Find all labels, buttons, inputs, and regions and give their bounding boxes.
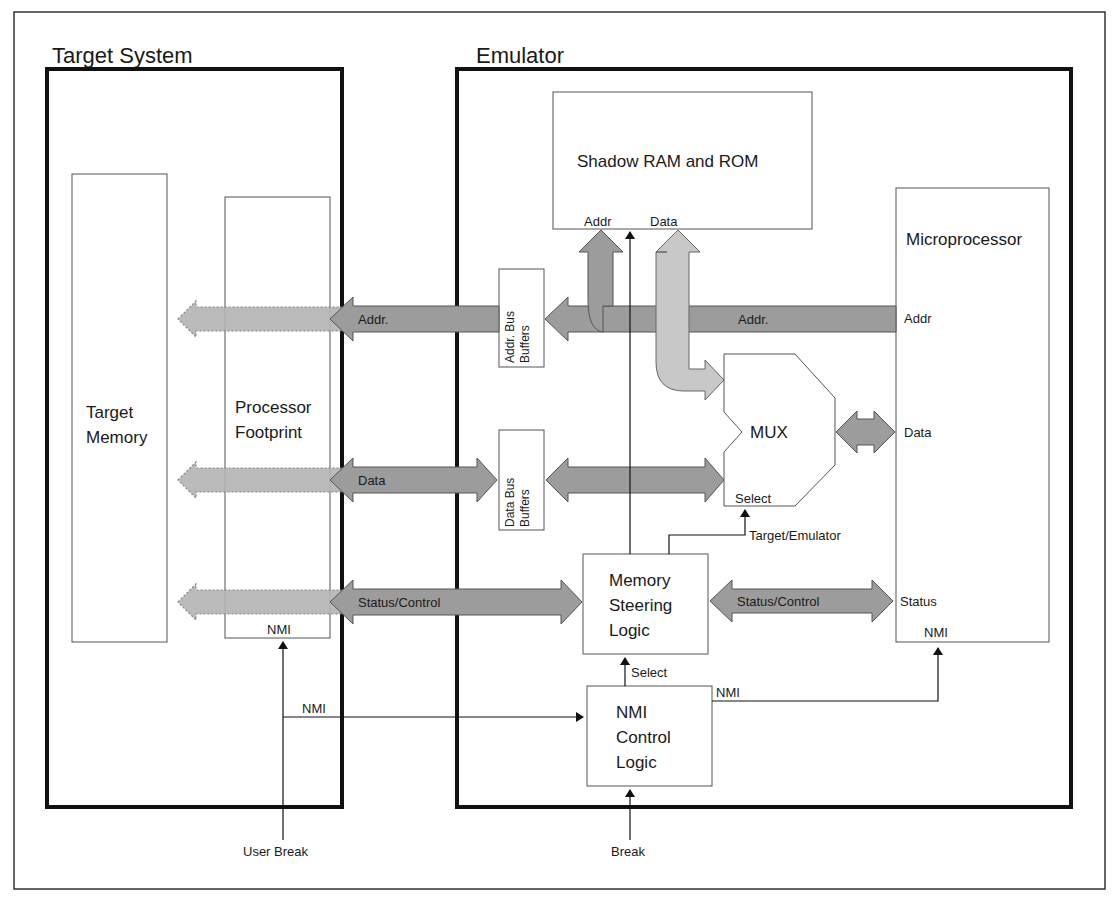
- shadow-ram-rom-label: Shadow RAM and ROM: [577, 152, 758, 171]
- data-bus-buffers-label-2: Buffers: [518, 489, 532, 527]
- data-bus-left-label: Data: [358, 473, 386, 488]
- data-bus-buffers-label-1: Data Bus: [503, 478, 517, 527]
- nmi-to-micro-label: NMI: [716, 685, 740, 700]
- user-break-label: User Break: [243, 844, 309, 859]
- status-bus-right-label: Status/Control: [737, 594, 819, 609]
- processor-footprint-label-2: Footprint: [235, 423, 302, 442]
- break-label: Break: [611, 844, 645, 859]
- addr-bus-left-arrow: [330, 297, 499, 341]
- target-emulator-label: Target/Emulator: [749, 528, 841, 543]
- addr-bus-buffers-label-2: Buffers: [518, 325, 532, 363]
- shadow-addr-port: Addr: [584, 214, 612, 229]
- emulator-block-diagram: Target System Emulator Target Memory Pro…: [0, 0, 1115, 899]
- micro-nmi-pin: NMI: [924, 625, 948, 640]
- mux-label: MUX: [750, 423, 788, 442]
- msl-label-1: Memory: [609, 571, 671, 590]
- data-bus-left-arrow: [330, 458, 497, 502]
- status-bus-left-label: Status/Control: [358, 595, 440, 610]
- ncl-label-2: Control: [616, 728, 671, 747]
- target-memory-label-2: Memory: [86, 428, 148, 447]
- target-emulator-wire: [669, 510, 745, 554]
- mux-micro-data-arrow: [836, 411, 895, 453]
- microprocessor-block: [896, 188, 1049, 642]
- micro-status-pin: Status: [900, 594, 937, 609]
- addr-bus-buffers-label-1: Addr. Bus: [503, 311, 517, 363]
- ncl-label-3: Logic: [616, 753, 657, 772]
- msl-label-2: Steering: [609, 596, 672, 615]
- emulator-title: Emulator: [476, 43, 564, 68]
- addr-bus-right-label: Addr.: [738, 312, 768, 327]
- target-system-title: Target System: [52, 43, 193, 68]
- nmi-from-user-label: NMI: [302, 701, 326, 716]
- addr-bus-left-label: Addr.: [358, 312, 388, 327]
- shadow-data-port: Data: [650, 214, 678, 229]
- processor-footprint-label-1: Processor: [235, 398, 312, 417]
- target-memory-label-1: Target: [86, 403, 134, 422]
- data-bus-mux-arrow: [546, 458, 724, 502]
- micro-addr-pin: Addr: [904, 311, 932, 326]
- processor-footprint-nmi-pin: NMI: [267, 622, 291, 637]
- msl-label-3: Logic: [609, 621, 650, 640]
- microprocessor-label: Microprocessor: [906, 230, 1023, 249]
- select-label: Select: [631, 665, 668, 680]
- micro-data-pin: Data: [904, 425, 932, 440]
- mux-select-label: Select: [735, 491, 772, 506]
- processor-footprint-block: [225, 197, 330, 638]
- nmi-to-micro-wire: [712, 648, 938, 701]
- ncl-label-1: NMI: [616, 703, 647, 722]
